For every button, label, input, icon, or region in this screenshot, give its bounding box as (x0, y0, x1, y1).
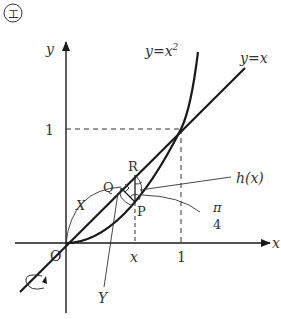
diagram: エ x y O 1 1 x y=x2 y=x X Y h(x) π 4 (0, 0, 281, 319)
label-Q: Q (103, 180, 114, 195)
figure-marker-text: エ (8, 8, 19, 21)
label-R: R (128, 159, 139, 174)
x-axis-label: x (272, 235, 280, 251)
arc-X (66, 187, 121, 243)
figure-marker: エ (4, 4, 22, 22)
svg-text:y=x2: y=x2 (144, 42, 179, 59)
leader-angle (142, 195, 200, 212)
label-Y: Y (98, 290, 109, 306)
leader-h (140, 177, 231, 190)
parabola-label: y=x2 (144, 42, 179, 59)
label-angle-den: 4 (213, 217, 221, 232)
label-P: P (137, 204, 146, 219)
label-angle-num: π (212, 200, 222, 215)
line-label: y=x (239, 50, 268, 66)
tick-x-var: x (130, 249, 138, 265)
y-axis-label: y (45, 41, 55, 57)
label-X: X (75, 198, 86, 213)
tick-x-one: 1 (177, 249, 186, 265)
parabola-y-equals-x-squared (66, 52, 198, 243)
parabola-label-base: y=x (144, 43, 173, 59)
parabola-label-exp: 2 (172, 42, 179, 52)
tick-y-one: 1 (45, 122, 54, 138)
label-h: h(x) (236, 170, 264, 186)
